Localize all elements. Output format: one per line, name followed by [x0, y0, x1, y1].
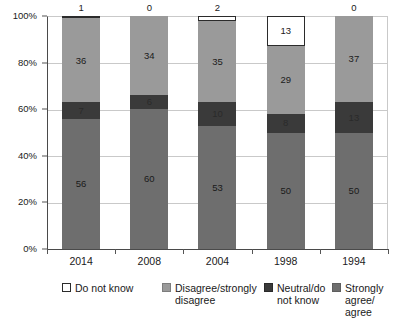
segment-agree-2008: 60: [130, 109, 168, 249]
x-axis-tick-2: [183, 249, 184, 254]
segment-disagree-2014: 36: [62, 18, 100, 102]
segment-disagree-2008: 34: [130, 16, 168, 95]
y-axis-label-0: 0%: [23, 244, 37, 254]
segment-agree-2014: 56: [62, 119, 100, 249]
segment-dontknow-2014: [62, 16, 100, 18]
legend-swatch-neutral-icon: [264, 283, 273, 292]
bar-2008[interactable]: 60 6 34: [130, 16, 168, 249]
plot-wrapper: 100% 80% 60% 40% 20% 0% 56: [0, 0, 402, 272]
bars-layer: 56 7 36 1 60 6 34 0 53: [47, 16, 388, 249]
legend-swatch-disagree-icon: [162, 283, 171, 292]
segment-agree-2004: 53: [198, 126, 236, 249]
segment-agree-1994: 50: [335, 133, 373, 250]
bar-group-2004: 53 10 35 2: [183, 16, 251, 249]
segment-neutral-1998: 8: [267, 114, 305, 133]
x-axis-label-2004: 2004: [206, 256, 229, 267]
x-axis-label-1994: 1994: [342, 256, 365, 267]
legend-item-agree[interactable]: Strongly agree/ agree: [332, 282, 394, 318]
legend-swatch-agree-icon: [332, 283, 341, 292]
segment-dontknow-2004: [198, 16, 236, 21]
legend-label-do-not-know: Do not know: [75, 282, 133, 294]
x-axis-tick-3: [252, 249, 253, 254]
segment-neutral-2008: 6: [130, 95, 168, 109]
segment-disagree-2004: 35: [198, 21, 236, 103]
legend-label-neutral: Neutral/do not know: [277, 282, 325, 306]
y-axis-label-60: 60%: [18, 104, 37, 114]
segment-disagree-1998: 29: [267, 46, 305, 114]
x-axis-labels: 2014 2008 2004 1998 1994: [47, 256, 388, 272]
segment-disagree-1994: 37: [335, 16, 373, 102]
segment-neutral-2014: 7: [62, 102, 100, 118]
x-axis-tick-4: [320, 249, 321, 254]
segment-dontknow-1998: 13: [267, 16, 305, 46]
x-axis-label-2014: 2014: [69, 256, 92, 267]
bar-top-label-2004: 2: [215, 3, 220, 13]
bar-1998[interactable]: 50 8 29 13: [267, 16, 305, 249]
segment-neutral-2004: 10: [198, 102, 236, 125]
y-axis: 100% 80% 60% 40% 20% 0%: [0, 16, 42, 249]
y-axis-label-80: 80%: [18, 58, 37, 68]
bar-group-2014: 56 7 36 1: [47, 16, 115, 249]
x-axis-tick-1: [115, 249, 116, 254]
bar-top-label-2014: 1: [78, 3, 83, 13]
y-axis-label-20: 20%: [18, 198, 37, 208]
bar-2014[interactable]: 56 7 36: [62, 16, 100, 249]
x-axis-tick-0: [47, 249, 48, 254]
y-axis-label-100: 100%: [13, 11, 37, 21]
bar-group-1998: 50 8 29 13: [252, 16, 320, 249]
bar-group-1994: 50 13 37 0: [320, 16, 388, 249]
legend-item-do-not-know[interactable]: Do not know: [62, 282, 133, 294]
legend-swatch-do-not-know-icon: [62, 283, 71, 292]
bar-1994[interactable]: 50 13 37: [335, 16, 373, 249]
x-axis-line: [47, 249, 388, 250]
bar-top-label-2008: 0: [147, 3, 152, 13]
y-axis-label-40: 40%: [18, 151, 37, 161]
segment-agree-1998: 50: [267, 133, 305, 250]
bar-group-2008: 60 6 34 0: [115, 16, 183, 249]
chart-legend: Do not know Disagree/strongly disagree N…: [14, 282, 394, 316]
legend-item-neutral[interactable]: Neutral/do not know: [264, 282, 325, 306]
legend-label-agree: Strongly agree/ agree: [345, 282, 394, 318]
x-axis-label-2008: 2008: [138, 256, 161, 267]
x-axis-tick-5: [388, 249, 389, 254]
legend-label-disagree: Disagree/strongly disagree: [175, 282, 257, 306]
segment-neutral-1994: 13: [335, 102, 373, 132]
bar-top-label-1994: 0: [351, 3, 356, 13]
bar-2004[interactable]: 53 10 35: [198, 16, 236, 249]
legend-item-disagree[interactable]: Disagree/strongly disagree: [162, 282, 257, 306]
x-axis-label-1998: 1998: [274, 256, 297, 267]
